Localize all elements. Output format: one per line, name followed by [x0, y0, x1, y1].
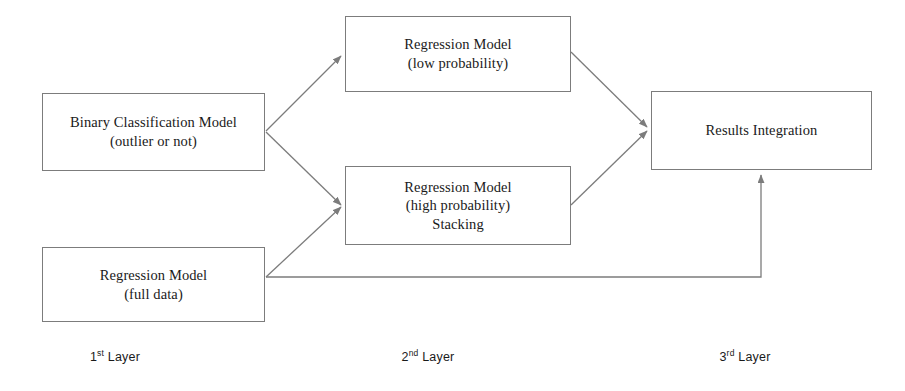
- node-regression-model-full-data[interactable]: Regression Model(full data): [42, 247, 265, 322]
- node-regression-model-high-probability-stacking[interactable]: Regression Model(high probability)Stacki…: [345, 166, 571, 245]
- connector-high-probability-to-results: [571, 131, 647, 205]
- connector-binary-to-low-probability: [266, 56, 341, 131]
- node-results-integration[interactable]: Results Integration: [651, 91, 872, 170]
- layer-label-layer-3: 3rd Layer: [719, 350, 770, 364]
- node-binary-classification-model[interactable]: Binary Classification Model(outlier or n…: [42, 93, 265, 171]
- layer-label-layer-1: 1st Layer: [90, 350, 140, 364]
- node-label-line: (high probability): [406, 196, 511, 215]
- layer-ordinal-suffix: nd: [409, 348, 419, 358]
- layer-label-text: Layer: [419, 350, 455, 364]
- node-label-line: (full data): [124, 285, 183, 304]
- node-label-line: Binary Classification Model: [70, 113, 237, 132]
- node-label-line: Stacking: [432, 215, 484, 234]
- layer-label-text: Layer: [104, 350, 140, 364]
- connector-binary-to-high-probability: [266, 132, 341, 205]
- layer-label-layer-2: 2nd Layer: [402, 350, 455, 364]
- node-label-line: Regression Model: [404, 178, 512, 197]
- connector-low-probability-to-results: [571, 52, 647, 127]
- node-regression-model-low-probability[interactable]: Regression Model(low probability): [345, 16, 571, 92]
- node-label-line: (low probability): [408, 54, 508, 73]
- layer-label-text: Layer: [735, 350, 771, 364]
- layer-ordinal-suffix: rd: [727, 348, 735, 358]
- diagram-canvas: Binary Classification Model(outlier or n…: [0, 0, 905, 391]
- node-label-line: Regression Model: [100, 266, 208, 285]
- node-label-line: Results Integration: [706, 121, 818, 140]
- node-label-line: Regression Model: [404, 35, 512, 54]
- node-label-line: (outlier or not): [110, 132, 197, 151]
- connector-full-data-to-high-probability: [266, 207, 341, 277]
